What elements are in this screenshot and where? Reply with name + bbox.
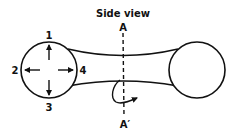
curved-arrow-icon xyxy=(113,80,137,103)
diagram-title: Side view xyxy=(96,8,150,19)
right-circle xyxy=(169,42,225,98)
label-4: 4 xyxy=(80,65,87,76)
section-line xyxy=(123,33,124,117)
label-2: 2 xyxy=(12,65,19,76)
side-view-diagram: Side view 1 2 3 4 A A′ xyxy=(0,0,236,136)
label-3: 3 xyxy=(46,102,53,113)
section-label-a-prime: A′ xyxy=(120,119,131,130)
section-label-a: A xyxy=(119,22,127,33)
label-1: 1 xyxy=(46,30,53,41)
